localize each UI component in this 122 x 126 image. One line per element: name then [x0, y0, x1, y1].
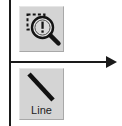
magnifier-marquee-icon [20, 7, 63, 51]
horizontal-pointer-arrow-shaft [9, 61, 110, 63]
toolbar-button-zoom[interactable] [19, 6, 64, 52]
zoom-glyph-wrap [20, 7, 63, 51]
diagonal-line-icon [20, 69, 63, 105]
horizontal-pointer-arrow-head [106, 56, 117, 68]
vertical-reference-line [9, 0, 11, 126]
toolbar-button-line[interactable]: Line [19, 68, 64, 120]
toolbar-button-line-label: Line [20, 104, 63, 116]
screenshot-canvas: Line [0, 0, 122, 126]
line-glyph-wrap: Line [20, 69, 63, 119]
